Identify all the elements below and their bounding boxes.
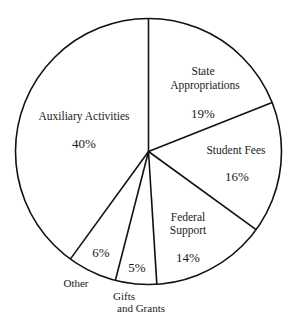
label-gifts-and-grants-line2: and Grants: [117, 302, 165, 314]
label-federal-support-line2: Support: [170, 224, 207, 237]
label-federal-support-line1: Federal: [171, 211, 205, 223]
pie-chart: State Appropriations 19% Student Fees 16…: [0, 0, 288, 326]
value-gifts-and-grants: 5%: [128, 260, 146, 275]
label-auxiliary-activities: Auxiliary Activities: [38, 110, 130, 123]
value-other: 6%: [92, 245, 110, 260]
label-state-appropriations-line1: State: [192, 65, 215, 77]
value-state-appropriations: 19%: [191, 106, 215, 121]
label-state-appropriations-line2: Appropriations: [170, 79, 240, 92]
value-federal-support: 14%: [176, 250, 200, 265]
label-other: Other: [63, 277, 88, 289]
value-student-fees: 16%: [225, 169, 249, 184]
label-gifts-and-grants-line1: Gifts: [113, 290, 135, 302]
label-student-fees: Student Fees: [206, 144, 266, 156]
value-auxiliary-activities: 40%: [72, 136, 96, 151]
